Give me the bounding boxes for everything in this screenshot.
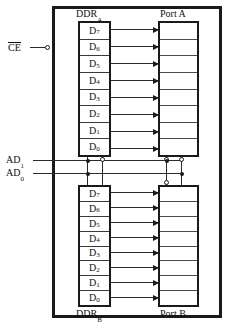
bus-junction-dot (86, 159, 90, 163)
ddr-b-to-port-b-arrow (111, 207, 158, 208)
port-a-cell (160, 90, 197, 107)
port-b-cell (160, 276, 197, 291)
ad1-bus-wire (33, 160, 180, 161)
port-a-cell (160, 73, 197, 90)
ddr-b-label: DDRB (76, 309, 102, 322)
port-a-cell (160, 40, 197, 57)
ddr-a-cell: D0 (80, 139, 109, 155)
ddr-a-to-port-a-arrow (111, 97, 158, 98)
ddr-b-to-port-b-arrow (111, 282, 158, 283)
ddr-b-cell: D5 (80, 217, 109, 232)
port-b-cell (160, 217, 197, 232)
ddr-a-to-port-a-arrow (111, 63, 158, 64)
ddr-b-cell: D6 (80, 202, 109, 217)
ddr-a-cell: D3 (80, 90, 109, 107)
bus-junction-dot (180, 172, 184, 176)
port-b-cell (160, 232, 197, 247)
ddr-b-cell: D4 (80, 232, 109, 247)
ddr-b-to-port-b-arrow (111, 297, 158, 298)
bus-junction-dot (165, 159, 169, 163)
ddr-a-to-port-a-arrow (111, 80, 158, 81)
port-b-cell (160, 202, 197, 217)
ce-wire (30, 47, 45, 48)
ddr-b-cell: D1 (80, 276, 109, 291)
ddr-b-cell: D3 (80, 247, 109, 262)
diagram-canvas: DDRA Port A D7 D6 D5 D4 D3 D2 D1 D0 (0, 0, 231, 327)
port-b-cell (160, 261, 197, 276)
port-a-bottom-bubble-icon (179, 157, 184, 162)
ddr-b-to-port-b-arrow (111, 192, 158, 193)
ddr-a-to-port-a-arrow (111, 46, 158, 47)
ddr-b-to-port-b-arrow (111, 252, 158, 253)
port-a-label: Port A (160, 9, 186, 19)
ad0-bus-wire (33, 173, 180, 174)
port-b-column (158, 185, 199, 307)
bus-junction-dot (86, 172, 90, 176)
ddr-b-to-port-b-arrow (111, 237, 158, 238)
port-a-column (158, 21, 199, 157)
ddr-a-cell: D2 (80, 106, 109, 123)
ddr-b-cell: D7 (80, 187, 109, 202)
ddr-a-cell: D1 (80, 123, 109, 140)
ddr-a-to-port-a-arrow (111, 29, 158, 30)
port-a-cell (160, 106, 197, 123)
port-b-top-bubble-icon (164, 180, 169, 185)
port-a-cell (160, 23, 197, 40)
ddr-b-register: D7 D6 D5 D4 D3 D2 D1 D0 (78, 185, 111, 307)
port-b-cell (160, 291, 197, 305)
ddr-b-cell: D2 (80, 261, 109, 276)
ddr-a-to-port-a-arrow (111, 131, 158, 132)
port-a-cell (160, 123, 197, 140)
ce-inversion-bubble-icon (45, 45, 50, 50)
ddr-a-cell: D4 (80, 73, 109, 90)
port-a-cell (160, 139, 197, 155)
ddr-a-cell: D5 (80, 56, 109, 73)
port-b-label: Port B (160, 309, 186, 319)
ddr-b-cell: D0 (80, 291, 109, 305)
ddr-a-bottom-bubble-icon (100, 157, 105, 162)
port-b-cell (160, 247, 197, 262)
ddr-b-to-port-b-arrow (111, 267, 158, 268)
ddr-a-register: D7 D6 D5 D4 D3 D2 D1 D0 (78, 21, 111, 157)
ad0-pin-label: AD0 (6, 168, 24, 181)
ddr-a-to-port-a-arrow (111, 114, 158, 115)
ddr-b-to-port-b-arrow (111, 222, 158, 223)
ddr-a-cell: D7 (80, 23, 109, 40)
ce-pin-label: CE (8, 42, 21, 54)
port-a-cell (160, 56, 197, 73)
ddr-a-to-port-a-arrow (111, 148, 158, 149)
port-b-cell (160, 187, 197, 202)
ddr-a-cell: D6 (80, 40, 109, 57)
